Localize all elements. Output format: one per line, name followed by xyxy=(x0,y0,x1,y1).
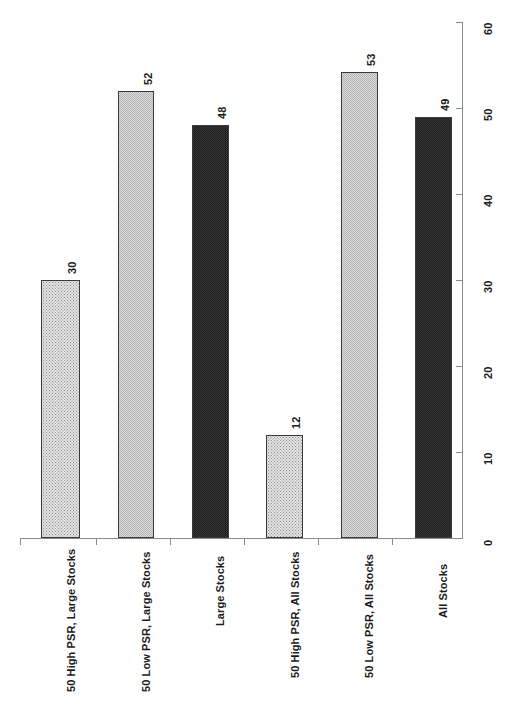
category-axis-tick-0 xyxy=(20,538,21,545)
value-axis-label-10: 10 xyxy=(482,452,494,465)
category-axis-line xyxy=(20,538,463,539)
bar-50-low-psr-all-stocks xyxy=(341,72,378,538)
bar-value-label-0: 30 xyxy=(66,261,78,274)
value-axis-tick-50 xyxy=(456,108,463,109)
category-axis-tick-1 xyxy=(96,538,97,545)
value-axis-label-30: 30 xyxy=(482,280,494,293)
bar-value-label-5: 49 xyxy=(439,98,451,111)
category-label-5: All Stocks xyxy=(437,564,449,618)
value-axis-tick-60 xyxy=(456,22,463,23)
category-axis-tick-4 xyxy=(318,538,319,545)
bar-50-high-psr-all-stocks xyxy=(266,435,303,538)
bar-large-stocks xyxy=(192,125,229,538)
category-label-4: 50 Low PSR, All Stocks xyxy=(363,554,375,678)
bar-50-high-psr-large-stocks xyxy=(41,280,80,538)
category-label-2: Large Stocks xyxy=(214,556,226,626)
bar-value-label-4: 53 xyxy=(365,53,377,66)
bar-50-low-psr-large-stocks xyxy=(118,91,154,538)
value-axis-tick-20 xyxy=(456,366,463,367)
category-axis-tick-2 xyxy=(170,538,171,545)
bar-value-label-2: 48 xyxy=(216,106,228,119)
value-axis-label-60: 60 xyxy=(482,22,494,35)
bar-value-label-1: 52 xyxy=(142,72,154,85)
bar-all-stocks xyxy=(415,117,452,538)
value-axis-tick-10 xyxy=(456,452,463,453)
category-axis-tick-3 xyxy=(244,538,245,545)
value-axis-tick-40 xyxy=(456,194,463,195)
bar-value-label-3: 12 xyxy=(290,416,302,429)
category-axis-tick-5 xyxy=(392,538,393,545)
value-axis-label-20: 20 xyxy=(482,366,494,379)
value-axis-tick-30 xyxy=(456,280,463,281)
value-axis-label-50: 50 xyxy=(482,108,494,121)
value-axis-label-0: 0 xyxy=(482,540,494,546)
category-label-3: 50 High PSR, All Stocks xyxy=(289,551,301,678)
category-label-1: 50 Low PSR, Large Stocks xyxy=(140,551,152,692)
value-axis-label-40: 40 xyxy=(482,194,494,207)
bar-chart: 60 50 40 30 20 10 0 30 52 48 12 53 49 50… xyxy=(0,0,506,713)
category-label-0: 50 High PSR, Large Stocks xyxy=(65,549,77,692)
